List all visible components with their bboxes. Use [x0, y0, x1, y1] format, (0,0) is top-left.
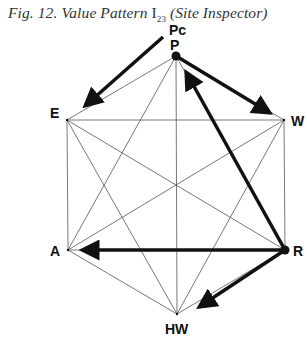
label-p: P — [170, 37, 179, 53]
value-arrows — [82, 37, 285, 307]
node-hw-dot — [176, 313, 178, 315]
label-pc: Pc — [169, 22, 186, 38]
node-w-dot — [283, 119, 285, 121]
arrow-pc-to-e — [85, 37, 163, 106]
label-w: W — [291, 113, 305, 129]
label-hw: HW — [165, 321, 189, 337]
arrow-p-to-w — [176, 56, 270, 113]
arrow-r-to-p — [186, 72, 285, 250]
arrow-r-to-hw — [199, 250, 285, 307]
value-pattern-diagram: Pc P W R HW A E — [0, 0, 307, 338]
label-r: R — [293, 243, 303, 259]
node-r-dot — [281, 246, 290, 255]
label-e: E — [50, 105, 59, 121]
label-a: A — [50, 243, 60, 259]
node-e-dot — [66, 119, 68, 121]
node-a-dot — [67, 249, 69, 251]
